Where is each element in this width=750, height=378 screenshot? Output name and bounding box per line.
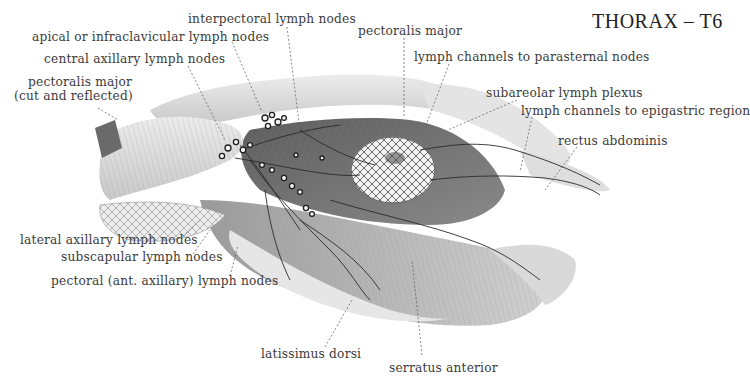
- label-central-axillary-lymph-nodes: central axillary lymph nodes: [44, 52, 225, 66]
- label-pectoralis-major-cut-line2: (cut and reflected): [14, 89, 133, 103]
- label-lymph-channels-parasternal: lymph channels to parasternal nodes: [414, 50, 650, 64]
- figure-title: THORAX – T6: [592, 10, 723, 33]
- label-serratus-anterior: serratus anterior: [389, 361, 498, 375]
- label-subareolar-lymph-plexus: subareolar lymph plexus: [486, 86, 643, 100]
- label-pectoralis-major-cut-line1: pectoralis major: [28, 75, 132, 89]
- label-pectoralis-major: pectoralis major: [358, 24, 462, 38]
- label-interpectoral-lymph-nodes: interpectoral lymph nodes: [188, 12, 356, 26]
- label-lymph-channels-epigastric: lymph channels to epigastric region: [521, 104, 750, 118]
- areola-plexus: [351, 137, 435, 203]
- label-rectus-abdominis: rectus abdominis: [558, 134, 668, 148]
- label-subscapular-lymph-nodes: subscapular lymph nodes: [61, 250, 223, 264]
- label-latissimus-dorsi: latissimus dorsi: [261, 347, 361, 361]
- label-lateral-axillary-lymph-nodes: lateral axillary lymph nodes: [20, 233, 198, 247]
- label-apical-lymph-nodes: apical or infraclavicular lymph nodes: [32, 30, 269, 44]
- label-pectoral-lymph-nodes: pectoral (ant. axillary) lymph nodes: [51, 274, 278, 288]
